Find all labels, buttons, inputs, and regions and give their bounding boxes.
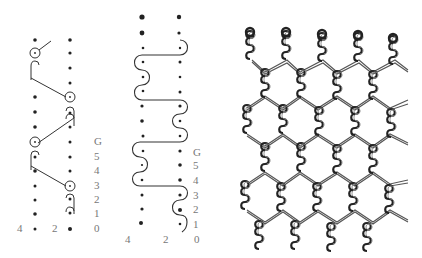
- lapping-diagram-left: G 5 4 3 2 1 0 4 2: [0, 0, 115, 258]
- row-label-4: 4: [94, 165, 100, 176]
- needle-points: [139, 14, 182, 225]
- row-label-g: G: [94, 136, 102, 147]
- row-label-0: 0: [94, 223, 100, 234]
- row-label-4: 4: [193, 175, 199, 186]
- wale-chains: [241, 31, 398, 251]
- hexagonal-net-fabric: [225, 0, 422, 258]
- row-label-5: 5: [193, 160, 199, 171]
- needle-label-2: 2: [52, 223, 58, 234]
- row-label-3: 3: [193, 190, 199, 201]
- row-label-2: 2: [193, 204, 199, 215]
- lapping-diagram-middle-drawing: [115, 0, 225, 258]
- needle-points: [33, 38, 72, 231]
- net-connecting-yarns: [247, 60, 408, 224]
- needle-label-2: 2: [163, 234, 169, 245]
- lapping-path: [30, 41, 75, 214]
- row-label-g: G: [193, 147, 201, 158]
- loop-centers: [34, 52, 71, 187]
- needle-label-0: 0: [194, 234, 200, 245]
- row-label-1: 1: [193, 219, 199, 230]
- needle-label-4: 4: [17, 223, 23, 234]
- lapping-diagram-left-drawing: [0, 0, 115, 258]
- needle-label-4: 4: [125, 234, 131, 245]
- row-label-2: 2: [94, 194, 100, 205]
- row-label-1: 1: [94, 208, 100, 219]
- row-label-3: 3: [94, 180, 100, 191]
- lapping-diagram-middle: G 5 4 3 2 1 4 2 0: [115, 0, 225, 258]
- row-label-5: 5: [94, 151, 100, 162]
- fabric-structure-illustration: [225, 0, 422, 258]
